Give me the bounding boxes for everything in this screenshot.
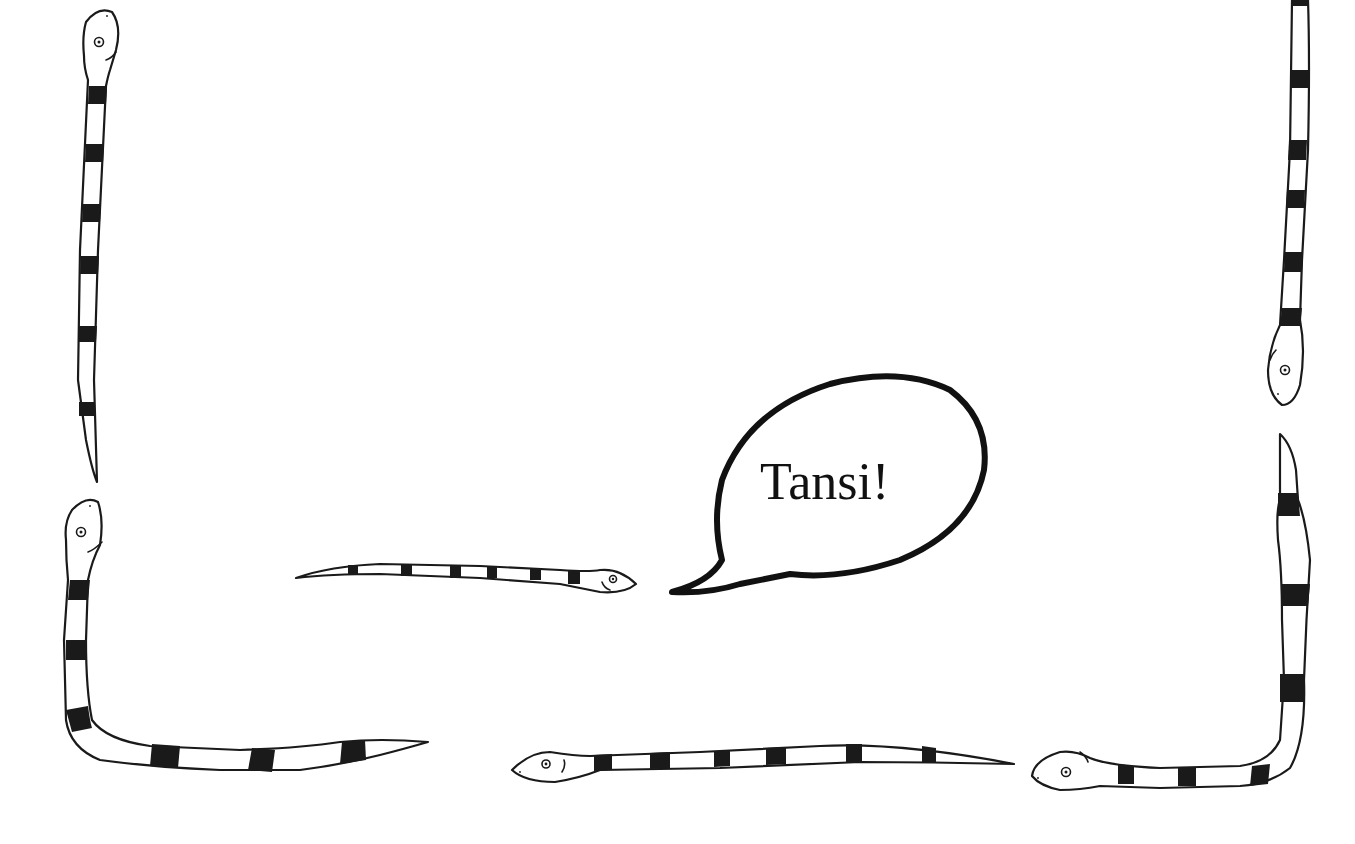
speech-bubble-text: Tansi! bbox=[760, 452, 930, 512]
snake-border-illustration bbox=[0, 0, 1355, 844]
snake-middle bbox=[296, 564, 636, 592]
snake-bottom-right bbox=[1032, 434, 1310, 790]
snake-bottom-center bbox=[512, 744, 1014, 782]
snake-bottom-left bbox=[64, 500, 428, 772]
snake-top-left bbox=[78, 10, 118, 482]
snake-top-right bbox=[1268, 0, 1309, 405]
